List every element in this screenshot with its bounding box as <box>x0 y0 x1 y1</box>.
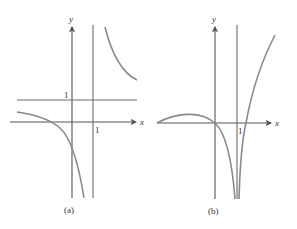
panel-a: y x 1 1 (a) <box>10 14 144 215</box>
figure-canvas: y x 1 1 (a) y x 1 (b) <box>0 0 297 229</box>
tick-label-x1-a: 1 <box>95 125 100 135</box>
curve-right-branch-b <box>239 35 275 199</box>
curve-lower-branch-a <box>17 112 84 198</box>
x-axis-label-b: x <box>274 118 279 128</box>
tick-label-x1-b: 1 <box>238 126 243 136</box>
y-axis-label-b: y <box>211 14 216 24</box>
tick-label-y1-a: 1 <box>64 90 69 100</box>
caption-b: (b) <box>208 206 219 216</box>
panel-b: y x 1 (b) <box>157 14 279 216</box>
y-axis-label-a: y <box>68 14 73 24</box>
caption-a: (a) <box>64 205 74 215</box>
curve-left-branch-b <box>157 114 235 199</box>
curve-upper-branch-a <box>105 27 137 80</box>
x-axis-label-a: x <box>139 117 144 127</box>
